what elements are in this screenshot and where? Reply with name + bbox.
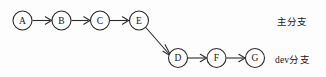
commit-node-b[interactable]: B bbox=[52, 11, 71, 30]
commit-node-d[interactable]: D bbox=[169, 49, 188, 68]
commit-node-c-label: C bbox=[97, 16, 103, 26]
commit-node-g[interactable]: G bbox=[246, 49, 265, 68]
commit-node-e-label: E bbox=[136, 16, 142, 26]
edge-f-to-g bbox=[227, 54, 246, 61]
branch-label-dev: dev分支 bbox=[275, 52, 310, 66]
commit-node-f[interactable]: F bbox=[207, 49, 226, 68]
edge-e-to-d-line bbox=[146, 28, 170, 56]
edge-c-to-e bbox=[110, 17, 129, 24]
commit-node-d-label: D bbox=[175, 53, 182, 63]
commit-node-c[interactable]: C bbox=[91, 11, 110, 30]
branch-label-main: 主分支 bbox=[277, 14, 308, 28]
edge-a-to-b bbox=[33, 17, 52, 24]
branch-diagram-canvas: A B C E D F bbox=[0, 0, 326, 77]
commit-node-f-label: F bbox=[214, 53, 219, 63]
edge-e-to-d bbox=[146, 28, 172, 57]
edge-d-to-f bbox=[188, 54, 207, 61]
commit-node-a-label: A bbox=[19, 16, 26, 26]
commit-node-b-label: B bbox=[58, 16, 64, 26]
commit-node-a[interactable]: A bbox=[13, 11, 32, 30]
commit-node-g-label: G bbox=[252, 53, 259, 63]
edge-b-to-c bbox=[72, 17, 91, 24]
commit-node-e[interactable]: E bbox=[130, 11, 149, 30]
